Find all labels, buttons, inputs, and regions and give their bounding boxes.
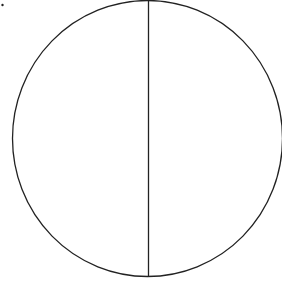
circle-shape (13, 1, 283, 277)
diagram-canvas (0, 0, 282, 293)
marker-dot (1, 4, 3, 6)
